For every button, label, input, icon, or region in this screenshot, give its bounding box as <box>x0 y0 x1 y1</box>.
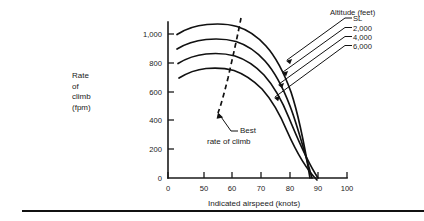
legend-item-4000: 4,000 <box>353 33 372 42</box>
rate-of-climb-chart: 1,000 800 600 400 200 0 0 50 60 70 80 90… <box>0 0 424 221</box>
annotation-best-line-1: Best <box>240 126 256 136</box>
y-tick-label-800: 800 <box>128 59 162 69</box>
y-axis-title: Rate of climb (fpm) <box>72 71 91 113</box>
x-tick-label-50: 50 <box>193 184 215 194</box>
bottom-divider-rule <box>22 210 424 212</box>
x-tick-label-0: 0 <box>157 184 179 194</box>
y-tick-label-400: 400 <box>128 116 162 126</box>
y-axis-ticks <box>168 34 174 149</box>
y-tick-label-1000: 1,000 <box>128 30 162 40</box>
y-tick-label-0: 0 <box>128 174 162 184</box>
y-tick-label-200: 200 <box>128 145 162 155</box>
y-tick-label-600: 600 <box>128 88 162 98</box>
x-tick-label-80: 80 <box>279 184 301 194</box>
x-axis-title: Indicated airspeed (knots) <box>208 199 300 209</box>
curve-sl <box>177 24 310 178</box>
legend-leader-6000 <box>275 46 352 98</box>
legend-item-2000: 2,000 <box>353 24 372 33</box>
x-axis-ticks <box>168 172 347 178</box>
x-tick-label-60: 60 <box>221 184 243 194</box>
x-tick-label-70: 70 <box>250 184 272 194</box>
y-axis-title-line-4: (fpm) <box>72 103 91 114</box>
x-tick-label-100: 100 <box>336 184 358 194</box>
legend-leader-lines <box>274 18 352 101</box>
y-axis-title-line-3: climb <box>72 92 91 103</box>
best-rate-of-climb-line <box>218 18 241 113</box>
annotation-best-line-2: rate of climb <box>207 137 251 147</box>
x-tick-label-90: 90 <box>307 184 329 194</box>
legend-item-6000: 6,000 <box>353 42 372 51</box>
legend-item-sl: SL <box>353 14 362 23</box>
y-axis-title-line-2: of <box>72 82 91 93</box>
y-axis-title-line-1: Rate <box>72 71 91 82</box>
